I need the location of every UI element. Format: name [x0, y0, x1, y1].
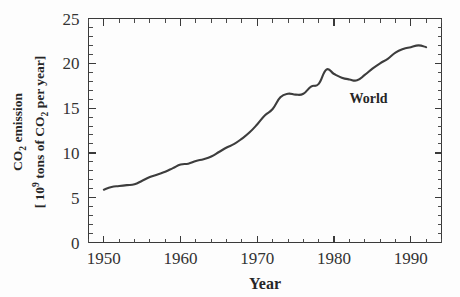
y-tick-label-20: 20: [63, 54, 80, 73]
chart-figure: 0510152025 19501960197019801990 World Ye…: [0, 0, 460, 297]
x-axis-minor-ticks: [89, 19, 442, 243]
x-axis-tick-labels: 19501960197019801990: [87, 249, 428, 268]
y-tick-label-10: 10: [63, 144, 80, 163]
x-axis-major-ticks: [104, 19, 411, 243]
y-axis-title-line1: CO2 emission: [10, 93, 28, 171]
y-tick-label-5: 5: [71, 189, 80, 208]
co2-emission-line-chart: 0510152025 19501960197019801990 World Ye…: [0, 0, 460, 297]
x-tick-label-1950: 1950: [87, 249, 121, 268]
x-tick-label-1960: 1960: [164, 249, 198, 268]
x-axis-title: Year: [249, 275, 281, 292]
y-axis-major-ticks: [89, 19, 442, 243]
y-axis-tick-labels: 0510152025: [63, 10, 80, 253]
x-tick-label-1980: 1980: [317, 249, 351, 268]
y-tick-label-0: 0: [71, 234, 80, 253]
x-tick-label-1990: 1990: [394, 249, 428, 268]
x-tick-label-1970: 1970: [240, 249, 274, 268]
y-axis-title-group: CO2 emission [ 109 tons of CO2 per year]: [10, 56, 50, 209]
y-axis-title-line2: [ 109 tons of CO2 per year]: [31, 56, 50, 209]
axis-frame: [89, 19, 442, 243]
plot-frame: [89, 19, 442, 243]
series-annotation-world: World: [350, 91, 388, 106]
y-tick-label-25: 25: [63, 10, 80, 29]
data-series-world: [104, 45, 426, 189]
y-tick-label-15: 15: [63, 99, 80, 118]
